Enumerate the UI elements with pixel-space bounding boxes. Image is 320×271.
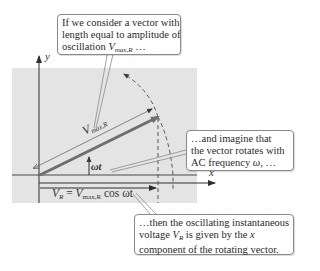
callout-text: oscillation	[62, 41, 108, 52]
formula-tail: cos ωt	[101, 187, 133, 199]
callout-line: oscillation Vmax,R …	[62, 41, 176, 56]
formula-eq: =	[63, 187, 75, 199]
formula-rhs: V	[76, 187, 83, 199]
callout-text: , …	[260, 157, 276, 168]
callout-line: AC frequency ω, …	[191, 157, 289, 169]
callout-line: the vector rotates with	[191, 145, 289, 157]
math-subscript: max,R	[115, 46, 133, 54]
callout-text: is given by the	[183, 229, 250, 240]
projection-formula: VR = Vmax,R cos ωt	[52, 187, 133, 201]
formula-rhs-sub: max,R	[83, 193, 101, 201]
callout-projection: …then the oscillating instantaneous volt…	[134, 214, 294, 255]
callout-line: …and imagine that	[191, 133, 289, 145]
callout-line: length equal to amplitude of	[62, 29, 176, 41]
y-axis-label: y	[45, 50, 50, 62]
angle-label: ωt	[91, 161, 102, 172]
callout-text: voltage	[139, 229, 173, 240]
callout-line: voltage VR is given by the x	[139, 229, 289, 244]
math-variable: x	[250, 229, 255, 240]
callout-line: If we consider a vector with	[62, 17, 176, 29]
callout-text: AC frequency	[191, 157, 253, 168]
callout-line: …then the oscillating instantaneous	[139, 217, 289, 229]
callout-amplitude: If we consider a vector with length equa…	[57, 14, 181, 55]
callout-text: …	[133, 41, 146, 52]
callout-line: component of the rotating vector.	[139, 244, 289, 256]
callout-rotation: …and imagine that the vector rotates wit…	[186, 130, 294, 171]
formula-lhs: V	[52, 187, 59, 199]
